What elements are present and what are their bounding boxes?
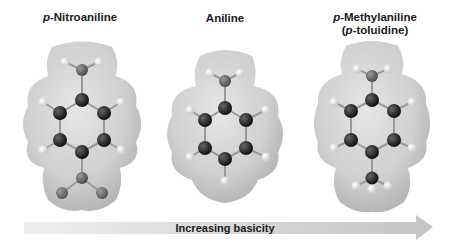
hydrogen-atom [117,146,126,155]
hydrogen-atom [353,65,362,74]
methyl-carbon-atom [366,172,379,185]
carbon-atom [365,145,379,159]
oxygen-atom [56,187,68,199]
hydrogen-atom [408,98,417,107]
hydrogen-atom [206,69,215,78]
carbon-atom [239,113,253,127]
molecules-diagram [0,0,450,252]
carbon-atom [239,141,253,155]
carbon-atom [344,104,358,118]
hydrogen-atom [352,182,361,191]
carbon-atom [53,106,67,120]
hydrogen-atom [384,65,393,74]
carbon-atom [97,133,111,147]
hydrogen-atom [39,98,48,107]
carbon-atom [344,133,358,147]
hydrogen-atom [384,182,393,191]
carbon-atom [387,133,401,147]
molecule-aniline [167,50,283,203]
carbon-atom [198,113,212,127]
hydrogen-atom [186,153,195,162]
oxygen-atom [96,187,108,199]
nitrogen-atom [76,64,88,76]
hydrogen-atom [330,144,339,153]
hydrogen-atom [236,69,245,78]
nitrogen-atom [366,70,378,82]
carbon-atom [365,93,379,107]
arrow-label: Increasing basicity [140,222,310,234]
hydrogen-atom [186,106,195,115]
carbon-atom [218,152,232,166]
hydrogen-atom [221,177,230,186]
hydrogen-atom [262,106,271,115]
carbon-atom [218,101,232,115]
nitrogen-atom [76,172,88,184]
carbon-atom [53,133,67,147]
hydrogen-atom [117,98,126,107]
hydrogen-atom [330,98,339,107]
hydrogen-atom [368,185,377,194]
carbon-atom [97,106,111,120]
carbon-atom [387,104,401,118]
hydrogen-atom [39,146,48,155]
molecule-p-nitroaniline [23,42,141,211]
hydrogen-atom [95,58,104,67]
hydrogen-atom [262,153,271,162]
hydrogen-atom [408,144,417,153]
carbon-atom [198,141,212,155]
molecule-p-methylaniline [314,41,430,212]
carbon-atom [75,145,89,159]
nitrogen-atom [219,75,231,87]
carbon-atom [75,93,89,107]
hydrogen-atom [61,58,70,67]
